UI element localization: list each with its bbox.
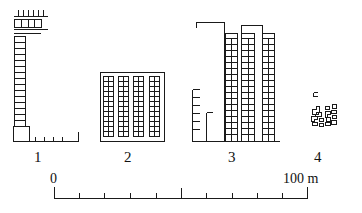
building-label-1: 1 xyxy=(34,150,42,165)
building-1-annex-wall xyxy=(14,132,79,142)
building-1 xyxy=(14,10,79,142)
scale-start-label: 0 xyxy=(50,172,57,186)
building-3-tower-b xyxy=(242,26,263,142)
building-1-tower-shaft xyxy=(15,37,26,127)
building-1-roof-chimneys xyxy=(19,10,44,16)
building-1-canopy xyxy=(14,30,48,34)
building-2-bay-4 xyxy=(150,77,160,137)
scale-bar xyxy=(55,187,308,199)
scale-end-label: 100 m xyxy=(283,172,318,186)
building-label-3: 3 xyxy=(228,150,236,165)
building-4 xyxy=(311,93,336,127)
building-1-penthouse xyxy=(15,20,42,28)
building-3-stepped-roof xyxy=(197,23,225,34)
building-label-4: 4 xyxy=(314,150,322,165)
building-3-level-ticks xyxy=(193,90,213,142)
building-2 xyxy=(100,73,165,142)
building-2-bay-3 xyxy=(134,77,144,137)
building-3-tower-c xyxy=(263,34,275,142)
building-4-footprint-cluster xyxy=(311,104,336,126)
building-4-upper-marker xyxy=(314,93,318,97)
scale-bar-major-ticks xyxy=(55,187,308,199)
building-2-bay-1 xyxy=(104,77,114,137)
building-label-2: 2 xyxy=(124,150,132,165)
building-1-window-rows xyxy=(15,43,26,121)
building-3 xyxy=(192,23,280,142)
building-3-tower-a xyxy=(226,34,238,142)
building-3-left-wall xyxy=(192,34,280,142)
building-1-podium xyxy=(14,127,30,142)
building-2-bay-2 xyxy=(119,77,129,137)
